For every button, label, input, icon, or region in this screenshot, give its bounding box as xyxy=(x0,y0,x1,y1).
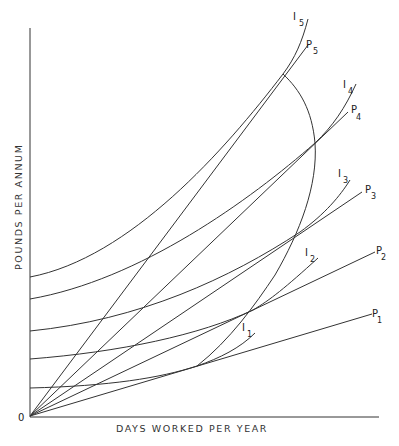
svg-text:I: I xyxy=(293,11,296,22)
svg-text:3: 3 xyxy=(343,176,348,185)
origin-label: 0 xyxy=(18,412,24,423)
price-line-p3 xyxy=(30,192,362,416)
label-p5: P 5 xyxy=(306,39,318,56)
svg-text:5: 5 xyxy=(299,19,304,28)
label-p3: P 3 xyxy=(365,184,376,201)
label-i4: I 4 xyxy=(343,79,353,96)
price-line-p4 xyxy=(30,112,348,416)
svg-text:5: 5 xyxy=(313,47,318,56)
svg-text:4: 4 xyxy=(348,87,353,96)
label-p1: P 1 xyxy=(372,308,382,325)
label-i1: I 1 xyxy=(242,322,252,339)
label-i3: I 3 xyxy=(338,168,348,185)
svg-text:3: 3 xyxy=(371,192,376,201)
svg-text:2: 2 xyxy=(310,255,315,264)
svg-text:I: I xyxy=(343,79,346,90)
label-p4: P 4 xyxy=(351,104,361,122)
svg-text:I: I xyxy=(338,168,341,179)
indifference-curve-i5 xyxy=(30,19,308,277)
indifference-curve-i2 xyxy=(30,258,318,359)
indifference-curve-i4 xyxy=(30,84,356,299)
price-line-p5 xyxy=(30,45,308,416)
svg-text:I: I xyxy=(242,322,245,333)
svg-text:2: 2 xyxy=(381,253,386,262)
svg-text:1: 1 xyxy=(377,316,382,325)
label-i5: I 5 xyxy=(293,11,304,28)
x-axis-label: DAYS WORKED PER YEAR xyxy=(116,423,268,434)
indifference-curve-i1 xyxy=(30,333,255,388)
svg-text:1: 1 xyxy=(247,330,252,339)
label-i2: I 2 xyxy=(305,247,315,264)
svg-text:P: P xyxy=(306,39,312,50)
labor-supply-diagram: POUNDS PER ANNUM DAYS WORKED PER YEAR 0 … xyxy=(0,0,399,446)
svg-text:I: I xyxy=(305,247,308,258)
label-p2: P 2 xyxy=(376,245,386,262)
price-line-p2 xyxy=(30,252,375,416)
svg-text:4: 4 xyxy=(356,113,361,122)
y-axis-label: POUNDS PER ANNUM xyxy=(13,144,24,270)
